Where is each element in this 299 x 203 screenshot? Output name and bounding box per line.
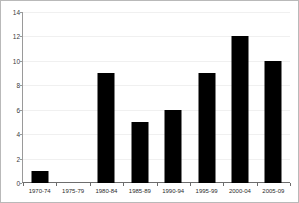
x-axis-tick-mark xyxy=(223,183,224,186)
x-axis-tick-label: 1980-84 xyxy=(95,187,117,195)
x-axis-tick-label: 1975-79 xyxy=(62,187,84,195)
x-axis-tick-mark xyxy=(56,183,57,186)
x-axis-tick-label: 2005-09 xyxy=(262,187,284,195)
x-axis-tick-label: 1990-94 xyxy=(162,187,184,195)
x-axis-tick-mark xyxy=(90,183,91,186)
y-axis-ticks xyxy=(1,12,22,183)
x-axis-tick-mark xyxy=(123,183,124,186)
x-axis-tick-label: 2000-04 xyxy=(229,187,251,195)
x-axis-tick-mark xyxy=(290,183,291,186)
x-axis-tick-mark xyxy=(23,183,24,186)
x-axis-tick-label: 1970-74 xyxy=(29,187,51,195)
x-axis-tick-label: 1995-99 xyxy=(196,187,218,195)
chart-frame: 02468101214 1970-741975-791980-841985-89… xyxy=(0,0,299,203)
x-axis: 1970-741975-791980-841985-891990-941995-… xyxy=(23,187,290,199)
x-axis-tick-mark xyxy=(157,183,158,186)
x-axis-ticks xyxy=(23,1,290,203)
x-axis-tick-mark xyxy=(190,183,191,186)
y-axis-tick-mark xyxy=(20,183,22,184)
x-axis-tick-mark xyxy=(257,183,258,186)
x-axis-tick-label: 1985-89 xyxy=(129,187,151,195)
